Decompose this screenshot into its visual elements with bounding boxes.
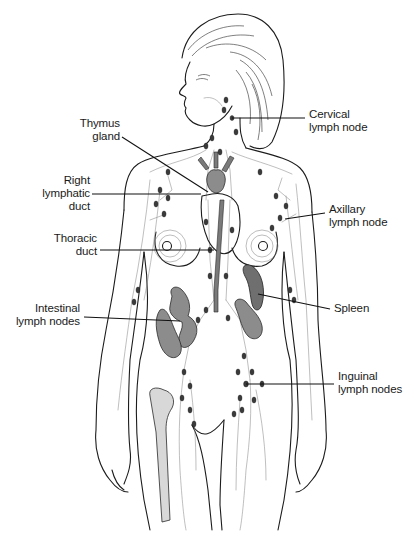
- leader-line-thymus: [122, 137, 208, 192]
- thoracic-duct-vessel: [214, 200, 224, 312]
- label-axillary-lymph-node: Axillary lymph node: [329, 203, 387, 229]
- femur-bone: [150, 388, 174, 522]
- lymphatic-system-illustration: [0, 0, 409, 555]
- lymph-nodes: [132, 97, 296, 427]
- label-spleen: Spleen: [334, 302, 369, 315]
- label-thymus-gland: Thymus gland: [72, 117, 120, 143]
- label-thoracic-duct: Thoracic duct: [45, 232, 97, 258]
- body-outline: [96, 146, 327, 530]
- label-intestinal-lymph-nodes: Intestinal lymph nodes: [0, 302, 80, 328]
- label-right-lymphatic-duct: Right lymphatic duct: [20, 174, 90, 213]
- leader-line-axillary: [285, 213, 325, 219]
- leader-line-spleen: [258, 294, 330, 309]
- thymus-gland: [207, 170, 226, 193]
- lymph-vessels: [118, 150, 312, 530]
- hair: [182, 14, 284, 149]
- intestines: [156, 287, 262, 358]
- label-inguinal-lymph-nodes: Inguinal lymph nodes: [338, 370, 402, 396]
- label-cervical-lymph-node: Cervical lymph node: [309, 108, 367, 134]
